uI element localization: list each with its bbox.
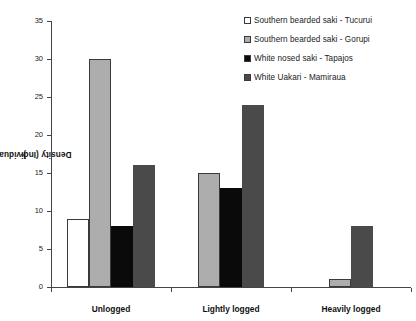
y-axis-tick <box>47 21 51 22</box>
y-axis-tick <box>47 249 51 250</box>
bar <box>351 226 373 287</box>
bar <box>111 226 133 287</box>
y-axis-tick-label: 20 <box>29 130 43 139</box>
bar <box>242 105 264 287</box>
plot-area: 05101520253035 UnloggedLightly loggedHea… <box>51 21 411 288</box>
x-axis-tick <box>411 288 412 292</box>
bar <box>133 165 155 287</box>
bar-chart: Density (Individuals/km2) Southern beard… <box>0 0 416 321</box>
y-axis-title: Density (Individuals/km2) <box>18 95 32 215</box>
bar <box>220 188 242 287</box>
y-axis-line <box>51 21 52 288</box>
x-axis-tick <box>171 288 172 292</box>
y-axis-tick-label: 15 <box>29 168 43 177</box>
y-axis-tick-label: 10 <box>29 206 43 215</box>
y-axis-tick <box>47 59 51 60</box>
x-axis-category-label: Heavily logged <box>321 304 380 314</box>
y-axis-tick-label: 0 <box>29 282 43 291</box>
x-axis-line <box>51 287 411 288</box>
y-axis-tick-label: 35 <box>29 16 43 25</box>
y-axis-tick-label: 25 <box>29 92 43 101</box>
x-axis-tick <box>291 288 292 292</box>
bar <box>329 279 351 287</box>
y-axis-tick <box>47 173 51 174</box>
y-axis-tick <box>47 211 51 212</box>
y-axis-tick-label: 5 <box>29 244 43 253</box>
bar <box>198 173 220 287</box>
x-axis-tick <box>51 288 52 292</box>
y-axis-tick-label: 30 <box>29 54 43 63</box>
y-axis-tick <box>47 97 51 98</box>
x-axis-category-label: Lightly logged <box>202 304 259 314</box>
y-axis-tick <box>47 135 51 136</box>
y-axis-title-text: Density (Individuals/km2) <box>20 153 31 156</box>
y-axis-title-tail: ) <box>24 151 27 160</box>
x-axis-category-label: Unlogged <box>92 304 131 314</box>
bar <box>89 59 111 287</box>
bar <box>67 219 89 287</box>
